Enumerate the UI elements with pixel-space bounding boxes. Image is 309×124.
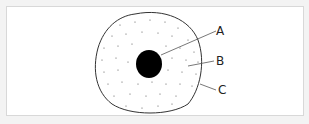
- nucleus: [136, 50, 162, 78]
- label-c: C: [218, 83, 226, 97]
- cell-diagram: [0, 0, 309, 124]
- label-a: A: [216, 24, 224, 38]
- label-line-c: [200, 84, 216, 90]
- label-b: B: [216, 54, 224, 68]
